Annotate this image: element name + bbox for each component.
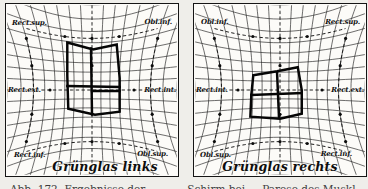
plotted-window <box>250 67 301 118</box>
muscle-label-obl-sup: Obl.sup. <box>200 151 231 159</box>
muscle-label-obl-inf: Obl.inf. <box>145 18 172 26</box>
muscle-label-rect-sup: Rect.sup. <box>325 18 360 26</box>
muscle-label-rect-inf: Rect.inf. <box>14 151 45 159</box>
muscle-label-obl-inf: Obl.inf. <box>201 18 228 26</box>
muscle-label-rect-ext: Rect.ext. <box>331 86 364 94</box>
muscle-label-rect-sup: Rect.sup. <box>12 19 47 27</box>
muscle-label-rect-inf: Rect.inf. <box>321 150 352 158</box>
figure-page: Grünglas links Rect.sup.Obl.inf.Rect.ext… <box>0 0 368 189</box>
muscle-label-rect-int: Rect.int. <box>144 86 176 94</box>
muscle-label-obl-sup: Obl.sup. <box>137 150 168 158</box>
muscle-label-rect-ext: Rect.ext. <box>8 86 41 94</box>
hess-chart-right-eye: Grünglas rechts Obl.inf.Rect.sup.Rect.in… <box>193 3 367 177</box>
figure-caption-clipped-row: Abb. 172. Ergebnisse der … Schirm bei … … <box>10 182 366 189</box>
figure-caption-fragment-right: Schirm bei … Parese des Muskl… <box>187 183 366 189</box>
panel-caption-right: Grünglas rechts <box>222 159 337 174</box>
muscle-label-rect-int: Rect.int. <box>196 86 228 94</box>
panel-caption-left: Grünglas links <box>52 159 158 174</box>
hess-chart-left-eye: Grünglas links Rect.sup.Obl.inf.Rect.ext… <box>5 3 179 177</box>
figure-caption-fragment-left: Abb. 172. Ergebnisse der … <box>10 183 159 189</box>
